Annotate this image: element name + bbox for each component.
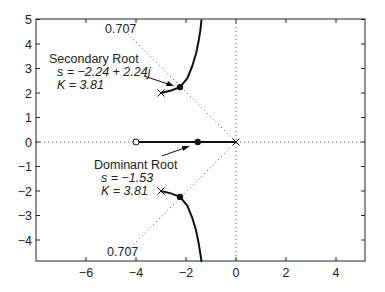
x-tick-label: −6 <box>79 266 93 280</box>
x-tick-label: 0 <box>233 266 240 280</box>
y-tick-label: −4 <box>18 234 32 248</box>
dominant-root-title: Dominant Root <box>94 158 178 172</box>
y-tick-label: 5 <box>25 13 32 27</box>
secondary-root-s-value: s = −2.24 + 2.24 <box>57 65 148 79</box>
y-tick-label: 3 <box>25 62 32 76</box>
root-dot-marker <box>177 194 183 200</box>
root-dot-marker <box>177 84 183 90</box>
dominant-root-arrow <box>162 146 190 156</box>
locus-branch <box>161 191 202 262</box>
secondary-root-arrow <box>144 76 174 86</box>
dominant-root-k: K = 3.81 <box>101 184 148 198</box>
zero-o-marker <box>133 139 139 145</box>
root-locus-plot: −6−4−2024543210−1−2−3−4 0.707 0.707 Seco… <box>0 0 385 292</box>
locus-branch <box>161 20 202 94</box>
zeta-label-top: 0.707 <box>105 22 136 36</box>
zeta-label-bottom: 0.707 <box>107 245 138 259</box>
secondary-root-title: Secondary Root <box>49 52 139 66</box>
y-tick-label: −2 <box>18 185 32 199</box>
x-tick-label: 4 <box>333 266 340 280</box>
y-tick-label: 4 <box>25 38 32 52</box>
secondary-root-k: K = 3.81 <box>57 78 104 92</box>
dominant-root-s: s = −1.53 <box>101 171 153 185</box>
x-tick-label: 2 <box>283 266 290 280</box>
y-tick-label: 1 <box>25 111 32 125</box>
locus-branches <box>136 20 236 263</box>
y-tick-label: 2 <box>25 87 32 101</box>
y-tick-label: 0 <box>25 136 32 150</box>
y-tick-label: −3 <box>18 209 32 223</box>
x-tick-label: −2 <box>179 266 193 280</box>
root-dot-marker <box>195 139 201 145</box>
x-tick-label: −4 <box>129 266 143 280</box>
secondary-root-s: s = −2.24 + 2.24j <box>57 65 152 79</box>
y-tick-label: −1 <box>18 160 32 174</box>
